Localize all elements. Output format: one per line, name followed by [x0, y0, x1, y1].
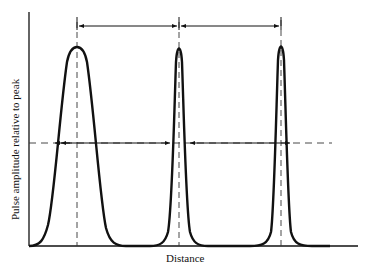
pulse-center-lines [77, 20, 281, 246]
pulse-curves [29, 47, 330, 247]
y-axis-label: Pulse amplitude relative to peak [9, 78, 21, 220]
pulse-1 [29, 47, 330, 247]
x-axis-label: Distance [166, 252, 205, 264]
pulse-spreading-diagram: Distance Pulse amplitude relative to pea… [0, 0, 369, 273]
spacing-arrows [77, 17, 281, 30]
